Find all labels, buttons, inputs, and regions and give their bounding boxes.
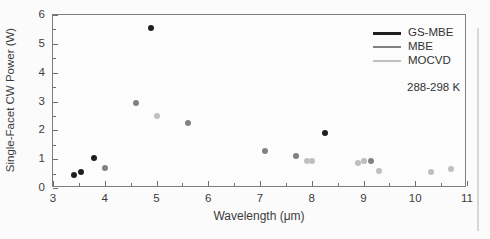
temperature-annotation: 288-298 K bbox=[407, 81, 460, 93]
x-axis-tick-label: 5 bbox=[153, 193, 159, 205]
data-point-mocvd bbox=[428, 169, 434, 175]
data-point-gs-mbe bbox=[71, 172, 77, 178]
x-axis-minor-tick bbox=[79, 183, 80, 186]
legend-entry-gs-mbe: GS-MBE bbox=[373, 26, 453, 40]
legend-entry-mocvd: MOCVD bbox=[373, 54, 453, 68]
y-axis-tick bbox=[53, 73, 58, 74]
y-axis-tick bbox=[53, 15, 58, 16]
x-axis-tick-label: 6 bbox=[205, 193, 211, 205]
y-axis-tick-label: 3 bbox=[39, 96, 45, 108]
x-axis-tick bbox=[364, 181, 365, 186]
x-axis-minor-tick bbox=[286, 183, 287, 186]
data-point-gs-mbe bbox=[148, 25, 154, 31]
x-axis-tick bbox=[157, 181, 158, 186]
data-point-mbe bbox=[293, 153, 299, 159]
y-axis-tick bbox=[53, 102, 58, 103]
x-axis-tick bbox=[208, 181, 209, 186]
data-point-mocvd bbox=[361, 158, 367, 164]
y-axis-minor-tick bbox=[53, 116, 56, 117]
x-axis-minor-tick bbox=[338, 183, 339, 186]
legend-entry-mbe: MBE bbox=[373, 40, 453, 54]
y-axis-tick-label: 6 bbox=[39, 9, 45, 21]
y-axis-tick-label: 4 bbox=[39, 67, 45, 79]
data-point-mbe bbox=[133, 100, 139, 106]
data-point-mocvd bbox=[309, 158, 315, 164]
y-axis-tick bbox=[53, 159, 58, 160]
y-axis-tick bbox=[53, 44, 58, 45]
data-point-mocvd bbox=[154, 113, 160, 119]
x-axis-tick-label: 7 bbox=[257, 193, 263, 205]
y-axis-tick-label: 0 bbox=[39, 182, 45, 194]
data-point-gs-mbe bbox=[78, 169, 84, 175]
legend-line-mbe bbox=[373, 46, 401, 48]
legend: GS-MBE MBE MOCVD bbox=[373, 26, 453, 68]
y-axis-minor-tick bbox=[53, 29, 56, 30]
y-axis-tick bbox=[53, 188, 58, 189]
figure: Single-Facet CW Power (W) 34567891011012… bbox=[0, 0, 490, 239]
data-point-mbe bbox=[262, 148, 268, 154]
y-axis-minor-tick bbox=[53, 174, 56, 175]
x-axis-tick-label: 11 bbox=[461, 193, 473, 205]
x-axis-tick bbox=[105, 181, 106, 186]
y-axis-title: Single-Facet CW Power (W) bbox=[4, 28, 16, 172]
x-axis-minor-tick bbox=[441, 183, 442, 186]
x-axis-tick-label: 8 bbox=[309, 193, 315, 205]
x-axis-minor-tick bbox=[234, 183, 235, 186]
data-point-gs-mbe bbox=[322, 130, 328, 136]
y-axis-minor-tick bbox=[53, 87, 56, 88]
x-axis-tick-label: 4 bbox=[102, 193, 108, 205]
data-point-mbe bbox=[185, 120, 191, 126]
x-axis-minor-tick bbox=[131, 183, 132, 186]
legend-label-mocvd: MOCVD bbox=[408, 55, 451, 67]
x-axis-tick bbox=[467, 181, 468, 186]
data-point-mbe bbox=[102, 165, 108, 171]
data-point-mocvd bbox=[448, 166, 454, 172]
x-axis-minor-tick bbox=[389, 183, 390, 186]
x-axis-title: Wavelength (μm) bbox=[52, 209, 466, 223]
y-axis-tick-label: 2 bbox=[39, 125, 45, 137]
y-axis-tick-label: 1 bbox=[39, 153, 45, 165]
data-point-mbe bbox=[368, 158, 374, 164]
x-axis-tick bbox=[312, 181, 313, 186]
x-axis-minor-tick bbox=[182, 183, 183, 186]
data-point-mocvd bbox=[376, 168, 382, 174]
x-axis-tick bbox=[260, 181, 261, 186]
x-axis-tick bbox=[53, 181, 54, 186]
x-axis-tick-label: 10 bbox=[409, 193, 422, 205]
x-axis-tick bbox=[415, 181, 416, 186]
y-axis-tick-label: 5 bbox=[39, 38, 45, 50]
legend-line-gs-mbe bbox=[373, 32, 401, 35]
y-axis-minor-tick bbox=[53, 145, 56, 146]
scan-artifact-line bbox=[477, 28, 479, 231]
data-point-gs-mbe bbox=[91, 155, 97, 161]
x-axis-tick-label: 3 bbox=[50, 193, 56, 205]
x-axis-tick-label: 9 bbox=[360, 193, 366, 205]
y-axis-minor-tick bbox=[53, 58, 56, 59]
legend-label-mbe: MBE bbox=[408, 41, 433, 53]
y-axis-tick bbox=[53, 130, 58, 131]
legend-label-gs-mbe: GS-MBE bbox=[408, 27, 453, 39]
legend-line-mocvd bbox=[373, 60, 401, 62]
